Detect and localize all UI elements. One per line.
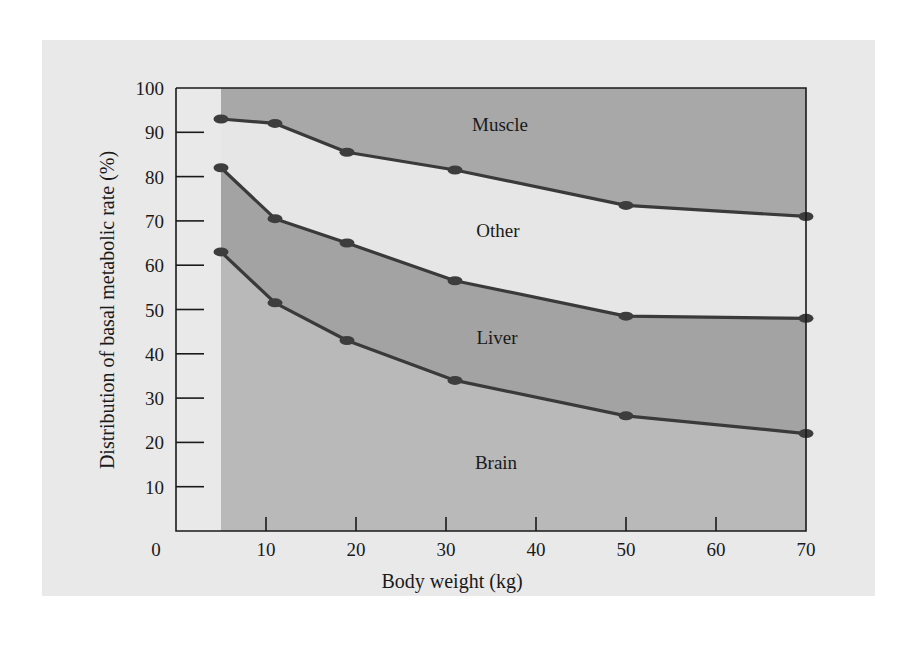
y-axis-title: Distribution of basal metabolic rate (%): [96, 151, 119, 469]
y-tick-label: 80: [145, 167, 164, 188]
region-label-brain: Brain: [475, 452, 518, 473]
data-point-marker: [340, 239, 355, 248]
data-point-marker: [268, 119, 283, 128]
y-tick-label: 50: [145, 300, 164, 321]
x-tick-label: 10: [257, 539, 276, 560]
x-tick-label: 30: [437, 539, 456, 560]
y-tick-label: 10: [145, 477, 164, 498]
data-point-marker: [448, 376, 463, 385]
y-tick-label: 70: [145, 211, 164, 232]
x-tick-label: 0: [151, 539, 161, 560]
data-point-marker: [268, 298, 283, 307]
x-tick-label: 50: [617, 539, 636, 560]
x-tick-label: 60: [707, 539, 726, 560]
data-point-marker: [448, 276, 463, 285]
y-tick-label: 60: [145, 255, 164, 276]
x-axis-title: Body weight (kg): [381, 570, 522, 593]
data-point-marker: [619, 201, 634, 210]
data-point-marker: [619, 312, 634, 321]
stacked-area-chart: 102030405060708090100 010203040506070 Mu…: [0, 0, 909, 662]
x-tick-label: 20: [347, 539, 366, 560]
data-point-marker: [214, 115, 229, 124]
x-tick-label: 40: [527, 539, 546, 560]
y-tick-label: 20: [145, 432, 164, 453]
x-tick-label: 70: [797, 539, 816, 560]
data-point-marker: [214, 247, 229, 256]
data-point-marker: [448, 165, 463, 174]
data-point-marker: [214, 163, 229, 172]
region-label-muscle: Muscle: [472, 114, 528, 135]
y-tick-label: 30: [145, 388, 164, 409]
y-tick-label: 100: [136, 78, 165, 99]
data-point-marker: [619, 411, 634, 420]
region-label-other: Other: [476, 220, 520, 241]
data-point-marker: [340, 148, 355, 157]
data-point-marker: [340, 336, 355, 345]
data-point-marker: [268, 214, 283, 223]
y-axis-ticks: 102030405060708090100: [136, 78, 205, 498]
region-label-liver: Liver: [476, 327, 518, 348]
y-tick-label: 40: [145, 344, 164, 365]
y-tick-label: 90: [145, 122, 164, 143]
